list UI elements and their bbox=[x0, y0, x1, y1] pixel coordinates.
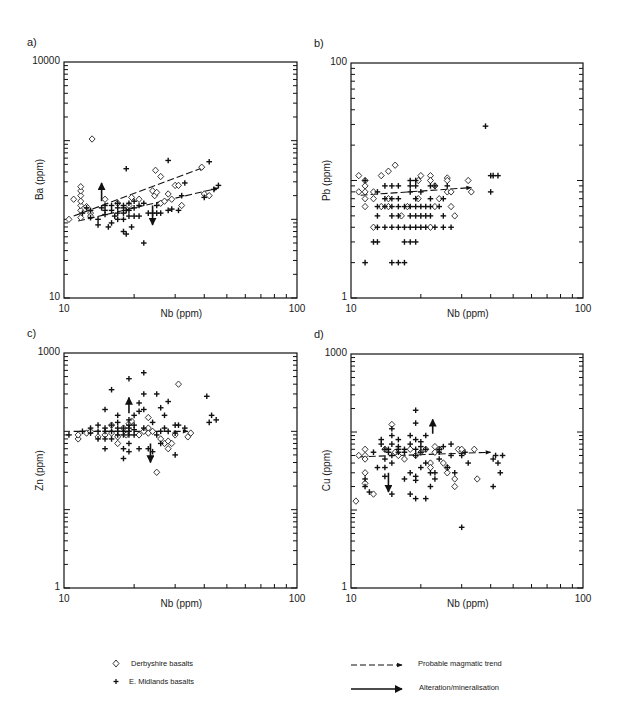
data-point-plus bbox=[413, 453, 419, 459]
data-point-plus bbox=[131, 432, 137, 438]
data-point-diamond bbox=[407, 446, 413, 452]
data-point-plus bbox=[407, 441, 413, 447]
data-point-plus bbox=[382, 474, 388, 480]
data-point-plus bbox=[129, 224, 135, 230]
xtick-left-b: 10 bbox=[336, 303, 366, 314]
data-point-plus bbox=[389, 260, 395, 266]
data-point-plus bbox=[418, 439, 424, 445]
data-point-plus bbox=[123, 166, 129, 172]
data-point-plus bbox=[413, 213, 419, 219]
data-point-plus bbox=[448, 441, 454, 447]
data-point-plus bbox=[154, 432, 160, 438]
data-point-plus bbox=[423, 224, 429, 230]
data-point-plus bbox=[206, 159, 212, 165]
data-point-plus bbox=[389, 433, 395, 439]
data-point-plus bbox=[182, 425, 188, 431]
data-point-plus bbox=[444, 465, 450, 471]
data-point-plus bbox=[109, 422, 115, 428]
data-point-plus bbox=[141, 370, 147, 376]
data-point-plus bbox=[95, 222, 101, 228]
data-point-plus bbox=[396, 183, 402, 189]
data-point-diamond bbox=[102, 196, 108, 202]
data-point-plus bbox=[402, 224, 408, 230]
data-point-plus bbox=[106, 224, 112, 230]
data-point-plus bbox=[444, 183, 450, 189]
panel-c bbox=[64, 353, 297, 588]
data-point-plus bbox=[109, 436, 115, 442]
data-point-plus bbox=[375, 465, 381, 471]
magmatic-trend-line bbox=[78, 188, 218, 221]
data-point-diamond bbox=[440, 460, 446, 466]
data-point-plus bbox=[432, 183, 438, 189]
x-axis-title-a: Nb (ppm) bbox=[161, 308, 203, 319]
legend-label-magmatic: Probable magmatic trend bbox=[418, 659, 502, 668]
data-point-plus bbox=[389, 213, 395, 219]
data-point-plus bbox=[382, 224, 388, 230]
data-point-plus bbox=[109, 220, 115, 226]
data-point-plus bbox=[402, 476, 408, 482]
data-point-plus bbox=[172, 452, 178, 458]
data-point-plus bbox=[115, 413, 121, 419]
data-point-diamond bbox=[452, 476, 458, 482]
data-point-plus bbox=[500, 453, 506, 459]
data-point-plus bbox=[389, 183, 395, 189]
data-point-plus bbox=[497, 470, 503, 476]
data-point-plus bbox=[413, 420, 419, 426]
data-point-plus bbox=[136, 213, 142, 219]
data-point-plus bbox=[465, 460, 471, 466]
data-point-plus bbox=[418, 224, 424, 230]
data-point-diamond bbox=[158, 173, 164, 179]
data-point-plus bbox=[209, 413, 215, 419]
data-point-plus bbox=[165, 158, 171, 164]
data-point-diamond bbox=[468, 189, 474, 195]
data-point-plus bbox=[112, 213, 118, 219]
y-axis-title-a: Ba (ppm) bbox=[34, 159, 45, 200]
data-point-plus bbox=[407, 239, 413, 245]
data-point-plus bbox=[413, 437, 419, 443]
xtick-right-c: 100 bbox=[282, 593, 312, 604]
ytick-top-a: 10000 bbox=[20, 55, 60, 66]
data-point-diamond bbox=[362, 203, 368, 209]
series-emidlands bbox=[66, 370, 219, 461]
data-point-diamond bbox=[362, 446, 368, 452]
series-emidlands bbox=[362, 407, 505, 530]
data-point-diamond bbox=[353, 498, 359, 504]
data-point-plus bbox=[375, 213, 381, 219]
data-point-plus bbox=[136, 446, 142, 452]
data-point-plus bbox=[418, 204, 424, 210]
data-point-plus bbox=[396, 224, 402, 230]
data-point-diamond bbox=[115, 440, 121, 446]
data-point-plus bbox=[396, 444, 402, 450]
data-point-plus bbox=[402, 260, 408, 266]
data-point-plus bbox=[428, 196, 434, 202]
data-point-diamond bbox=[427, 464, 433, 470]
data-point-plus bbox=[150, 420, 156, 426]
data-point-diamond bbox=[356, 189, 362, 195]
data-point-diamond bbox=[362, 189, 368, 195]
legend-label-alteration: Alteration/mineralisation bbox=[419, 683, 499, 692]
data-point-plus bbox=[428, 204, 434, 210]
data-point-plus bbox=[211, 187, 217, 193]
data-point-plus bbox=[126, 376, 132, 382]
data-point-plus bbox=[432, 224, 438, 230]
data-point-diamond bbox=[179, 202, 185, 208]
data-point-diamond bbox=[169, 196, 175, 202]
data-point-plus bbox=[432, 476, 438, 482]
data-point-plus bbox=[102, 446, 108, 452]
data-point-diamond bbox=[165, 446, 171, 452]
data-point-diamond bbox=[378, 172, 384, 178]
data-point-plus bbox=[109, 387, 115, 393]
y-axis-title-c: Zn (ppm) bbox=[34, 450, 45, 491]
data-point-diamond bbox=[362, 196, 368, 202]
data-point-diamond bbox=[165, 191, 171, 197]
data-point-diamond bbox=[356, 452, 362, 458]
data-point-plus bbox=[165, 429, 171, 435]
data-point-plus bbox=[66, 432, 72, 438]
panel-label-b: b) bbox=[314, 37, 324, 49]
data-point-plus bbox=[389, 460, 395, 466]
data-point-plus bbox=[371, 449, 377, 455]
data-point-plus bbox=[418, 213, 424, 219]
data-point-plus bbox=[389, 441, 395, 447]
xtick-left-c: 10 bbox=[49, 593, 79, 604]
data-point-plus bbox=[182, 180, 188, 186]
